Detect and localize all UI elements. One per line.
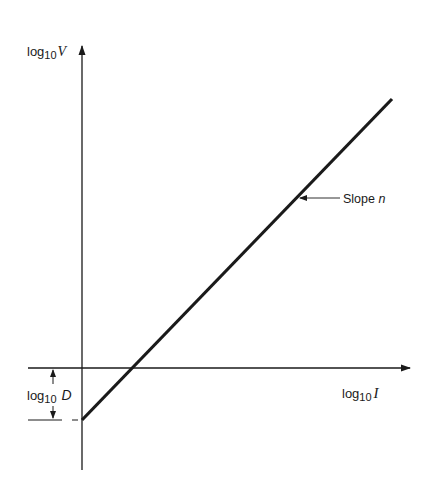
x-axis-label: log10I bbox=[342, 385, 380, 403]
log-log-diagram: Slope n log10V log10I log10D bbox=[0, 0, 422, 498]
intercept-label: log10D bbox=[27, 387, 72, 405]
slope-annotation: Slope n bbox=[300, 192, 385, 206]
slope-line bbox=[82, 99, 392, 420]
slope-label: Slope n bbox=[343, 192, 385, 206]
y-axis-label: log10V bbox=[27, 44, 68, 61]
